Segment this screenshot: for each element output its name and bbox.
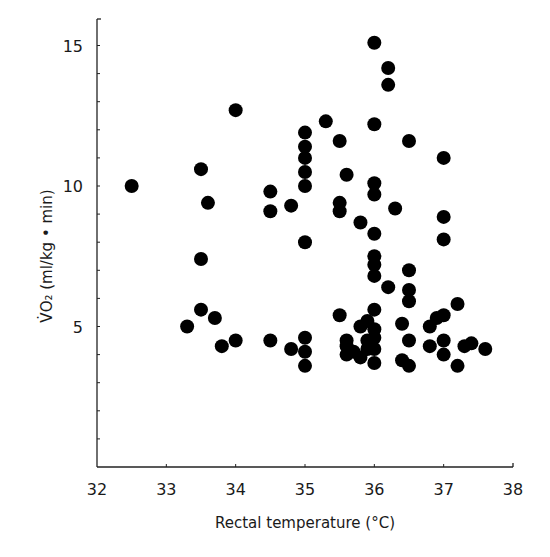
data-point [319, 114, 333, 128]
data-point [478, 342, 492, 356]
data-point [284, 342, 298, 356]
data-point [298, 165, 312, 179]
data-point [423, 339, 437, 353]
svg-text:V̇O₂ (ml/kg • min): V̇O₂ (ml/kg • min) [37, 189, 56, 322]
data-point [333, 134, 347, 148]
data-point [437, 348, 451, 362]
data-point [367, 269, 381, 283]
data-point [284, 199, 298, 213]
data-point [402, 334, 416, 348]
data-point [180, 320, 194, 334]
x-axis: 32333435363738 [87, 463, 523, 499]
data-points [125, 36, 493, 373]
data-point [402, 294, 416, 308]
data-point [367, 227, 381, 241]
x-tick-label: 32 [87, 480, 107, 499]
data-point [229, 103, 243, 117]
data-point [298, 126, 312, 140]
data-point [263, 334, 277, 348]
data-point [194, 303, 208, 317]
data-point [395, 317, 409, 331]
data-point [464, 336, 478, 350]
x-tick-label: 38 [503, 480, 523, 499]
data-point [263, 185, 277, 199]
data-point [367, 36, 381, 50]
data-point [298, 179, 312, 193]
x-tick-label: 34 [225, 480, 245, 499]
data-point [333, 308, 347, 322]
x-tick-label: 37 [433, 480, 453, 499]
x-tick-label: 33 [156, 480, 176, 499]
data-point [298, 151, 312, 165]
data-point [381, 61, 395, 75]
data-point [298, 345, 312, 359]
y-tick-label: 10 [63, 177, 83, 196]
data-point [229, 334, 243, 348]
data-point [194, 162, 208, 176]
data-point [367, 356, 381, 370]
y-axis: 51015 [63, 19, 101, 467]
scatter-chart: 51015 32333435363738 Rectal temperature … [0, 0, 550, 557]
data-point [402, 359, 416, 373]
data-point [367, 303, 381, 317]
data-point [437, 308, 451, 322]
data-point [125, 179, 139, 193]
data-point [353, 216, 367, 230]
data-point [402, 263, 416, 277]
data-point [437, 232, 451, 246]
data-point [437, 210, 451, 224]
data-point [381, 78, 395, 92]
x-tick-label: 35 [295, 480, 315, 499]
data-point [333, 204, 347, 218]
y-tick-label: 15 [63, 37, 83, 56]
data-point [367, 117, 381, 131]
x-tick-label: 36 [364, 480, 384, 499]
data-point [388, 201, 402, 215]
data-point [208, 311, 222, 325]
y-axis-title: V̇O₂ (ml/kg • min) [37, 189, 56, 322]
data-point [263, 204, 277, 218]
data-point [367, 187, 381, 201]
y-tick-label: 5 [73, 318, 83, 337]
data-point [298, 235, 312, 249]
data-point [402, 134, 416, 148]
data-point [298, 359, 312, 373]
data-point [437, 151, 451, 165]
data-point [381, 280, 395, 294]
data-point [367, 342, 381, 356]
data-point [451, 297, 465, 311]
x-axis-title: Rectal temperature (°C) [215, 514, 395, 532]
data-point [437, 334, 451, 348]
data-point [340, 168, 354, 182]
data-point [201, 196, 215, 210]
data-point [215, 339, 229, 353]
data-point [298, 331, 312, 345]
data-point [451, 359, 465, 373]
data-point [194, 252, 208, 266]
